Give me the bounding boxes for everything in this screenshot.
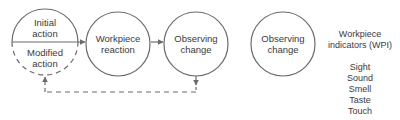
label-line: action (15, 58, 75, 69)
initial-action-label: Initial action (15, 17, 75, 39)
label-line: Modified (15, 47, 75, 58)
title-line: Workpiece (320, 29, 400, 40)
title-line: indicators (WPI) (320, 40, 400, 51)
modified-action-label: Modified action (15, 47, 75, 69)
workpiece-reaction-label: Workpiece reaction (88, 33, 148, 55)
label-line: reaction (88, 44, 148, 55)
label-line: Observing (166, 33, 226, 44)
wpi-list: Sight Sound Smell Taste Touch (330, 62, 390, 117)
wpi-item-touch: Touch (330, 106, 390, 117)
label-line: Initial (15, 17, 75, 28)
label-line: change (166, 44, 226, 55)
detail-observing-change-label: Observing change (253, 33, 313, 55)
feedback-loop (45, 76, 196, 92)
wpi-item-sight: Sight (330, 62, 390, 73)
wpi-item-smell: Smell (330, 84, 390, 95)
wpi-item-taste: Taste (330, 95, 390, 106)
wpi-item-sound: Sound (330, 73, 390, 84)
label-line: Workpiece (88, 33, 148, 44)
wpi-title: Workpiece indicators (WPI) (320, 29, 400, 51)
label-line: action (15, 28, 75, 39)
label-line: Observing (253, 33, 313, 44)
observing-change-label: Observing change (166, 33, 226, 55)
label-line: change (253, 44, 313, 55)
